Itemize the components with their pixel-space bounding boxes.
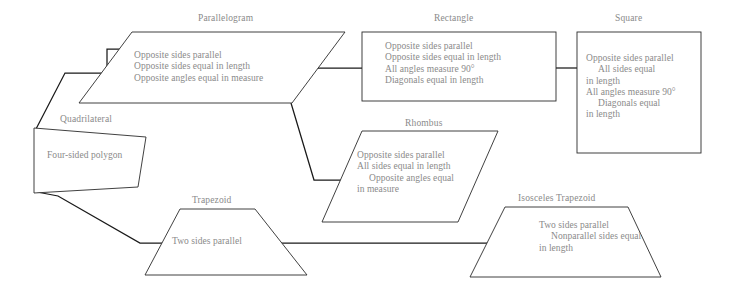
node-body-line: Nonparallel sides equal xyxy=(539,231,641,242)
node-body-line: Opposite sides equal in length xyxy=(134,61,263,72)
node-title-quadrilateral: Quadrilateral xyxy=(60,114,112,124)
node-body-line: All sides equal in length xyxy=(357,161,454,172)
node-body-line: Diagonals equal xyxy=(586,98,676,109)
node-body-line: All angles measure 90° xyxy=(385,64,501,75)
connector-parallelogram-to-rhombus xyxy=(291,103,348,180)
node-body-parallelogram: Opposite sides parallelOpposite sides eq… xyxy=(134,50,263,84)
node-body-square: Opposite sides parallelAll sides equalin… xyxy=(586,53,676,121)
node-body-rhombus: Opposite sides parallelAll sides equal i… xyxy=(357,150,454,195)
node-body-line: Two sides parallel xyxy=(172,236,242,247)
node-title-rectangle: Rectangle xyxy=(434,13,473,23)
node-body-line: All sides equal xyxy=(586,64,676,75)
quadrilateral-hierarchy-diagram: Quadrilateral Parallelogram Rectangle Sq… xyxy=(0,0,732,291)
node-body-line: Opposite sides parallel xyxy=(357,150,454,161)
node-body-line: Opposite angles equal xyxy=(357,173,454,184)
node-body-line: Opposite angles equal in measure xyxy=(134,73,263,84)
node-body-line: in length xyxy=(586,76,676,87)
node-title-trapezoid: Trapezoid xyxy=(192,195,232,205)
node-body-line: in length xyxy=(539,243,641,254)
node-body-isosceles-trapezoid: Two sides parallelNonparallel sides equa… xyxy=(539,220,641,254)
node-body-line: in length xyxy=(586,109,676,120)
node-body-line: Opposite sides parallel xyxy=(385,41,501,52)
node-title-parallelogram: Parallelogram xyxy=(198,13,253,23)
node-title-rhombus: Rhombus xyxy=(405,118,442,128)
node-body-line: in measure xyxy=(357,184,454,195)
node-body-line: Opposite sides parallel xyxy=(134,50,263,61)
node-title-square: Square xyxy=(615,13,642,23)
node-body-line: Four-sided polygon xyxy=(47,150,122,161)
node-title-isosceles-trapezoid: Isosceles Trapezoid xyxy=(518,193,596,203)
node-body-quadrilateral: Four-sided polygon xyxy=(47,150,122,161)
node-body-line: Diagonals equal in length xyxy=(385,75,501,86)
node-body-line: All angles measure 90° xyxy=(586,87,676,98)
node-body-rectangle: Opposite sides parallelOpposite sides eq… xyxy=(385,41,501,86)
node-body-line: Opposite sides equal in length xyxy=(385,52,501,63)
node-body-line: Two sides parallel xyxy=(539,220,641,231)
node-body-trapezoid: Two sides parallel xyxy=(172,236,242,247)
node-body-line: Opposite sides parallel xyxy=(586,53,676,64)
